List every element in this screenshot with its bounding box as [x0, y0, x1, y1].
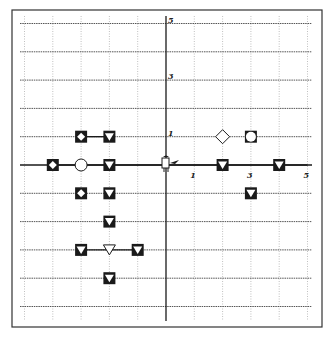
filled-square-triangle-icon — [103, 216, 115, 228]
grid-diagram — [0, 0, 331, 338]
filled-square-triangle-icon — [103, 187, 115, 199]
hollow-circle-icon — [75, 159, 87, 171]
y-axis-label: 5 — [168, 16, 174, 24]
square-hollow-circle-icon — [245, 131, 257, 143]
hollow-diamond-icon — [216, 130, 230, 144]
x-axis-label: 3 — [247, 171, 253, 179]
filled-square-diamond-icon — [47, 159, 59, 171]
robot-figure-icon — [162, 156, 179, 173]
y-axis-label: 1 — [168, 129, 174, 137]
filled-square-triangle-icon — [245, 187, 257, 199]
filled-square-triangle-icon — [75, 244, 87, 256]
filled-square-triangle-icon — [103, 131, 115, 143]
x-axis-label: 1 — [190, 171, 196, 179]
filled-square-triangle-icon — [103, 272, 115, 284]
y-axis-label: 3 — [168, 72, 174, 80]
filled-square-diamond-icon — [75, 187, 87, 199]
filled-square-triangle-icon — [103, 159, 115, 171]
filled-square-triangle-icon — [132, 244, 144, 256]
filled-square-triangle-icon — [217, 159, 229, 171]
filled-square-triangle-icon — [273, 159, 285, 171]
x-axis-label: 5 — [304, 171, 310, 179]
filled-square-diamond-icon — [75, 131, 87, 143]
